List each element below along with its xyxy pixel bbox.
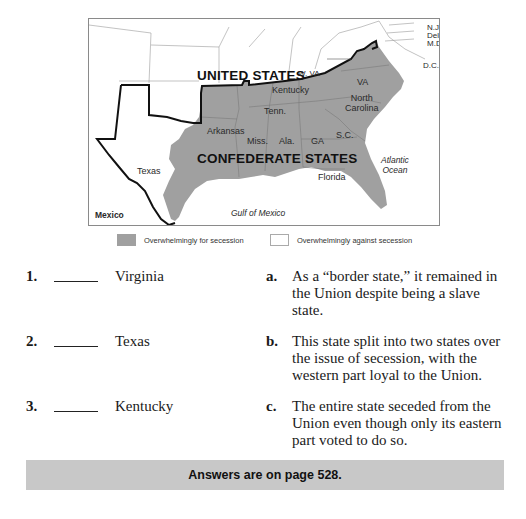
label-tenn: Tenn. <box>264 107 286 116</box>
choice-text: This state split into two states over th… <box>292 333 514 384</box>
label-florida: Florida <box>318 173 346 182</box>
label-united-states: UNITED STATES <box>197 69 305 83</box>
answers-note-bar: Answers are on page 528. <box>26 460 504 490</box>
answer-blank[interactable] <box>54 333 98 347</box>
label-texas: Texas <box>137 167 161 176</box>
gray-swatch-icon <box>117 234 136 246</box>
label-ala: Ala. <box>279 137 295 146</box>
answers-note: Answers are on page 528. <box>188 468 342 482</box>
question-term: Kentucky <box>115 398 173 415</box>
choice-text: As a “border state,” it remained in the … <box>292 268 514 319</box>
legend-label: Overwhelmingly against secession <box>297 236 412 245</box>
label-w-va: W. VA <box>298 70 320 78</box>
label-gulf-of-mexico: Gulf of Mexico <box>231 209 285 218</box>
label-dc: D.C. <box>423 62 439 70</box>
question-term: Texas <box>115 333 150 350</box>
label-arkansas: Arkansas <box>207 127 245 136</box>
question-number: 3. <box>26 398 37 415</box>
label-va: VA <box>357 78 368 87</box>
label-north-carolina: North Carolina <box>345 93 379 113</box>
legend-item-against-secession: Overwhelmingly against secession <box>270 234 412 246</box>
question-number: 1. <box>26 268 37 285</box>
white-swatch-icon <box>270 234 289 246</box>
label-confederate-states: CONFEDERATE STATES <box>197 152 357 166</box>
choice-letter: c. <box>266 398 276 415</box>
label-kentucky: Kentucky <box>272 86 309 95</box>
choice-text: The entire state seceded from the Union … <box>292 398 514 449</box>
secession-map: UNITED STATES W. VA Kentucky VA North Ca… <box>88 18 440 226</box>
legend-item-for-secession: Overwhelmingly for secession <box>117 234 244 246</box>
label-sc: S.C. <box>336 131 354 140</box>
question-term: Virginia <box>115 268 164 285</box>
legend-label: Overwhelmingly for secession <box>144 236 244 245</box>
texas-west-border <box>97 85 175 225</box>
answer-blank[interactable] <box>54 398 98 412</box>
label-ga: GA <box>311 137 324 146</box>
choice-letter: b. <box>266 333 278 350</box>
choice-letter: a. <box>266 268 277 285</box>
answer-blank[interactable] <box>54 268 98 282</box>
label-miss: Miss. <box>247 137 268 146</box>
label-atlantic-ocean: Atlantic Ocean <box>381 155 409 175</box>
question-number: 2. <box>26 333 37 350</box>
map-graphic <box>89 19 440 226</box>
label-md: M.D. <box>427 40 440 48</box>
label-mexico: Mexico <box>95 211 124 220</box>
